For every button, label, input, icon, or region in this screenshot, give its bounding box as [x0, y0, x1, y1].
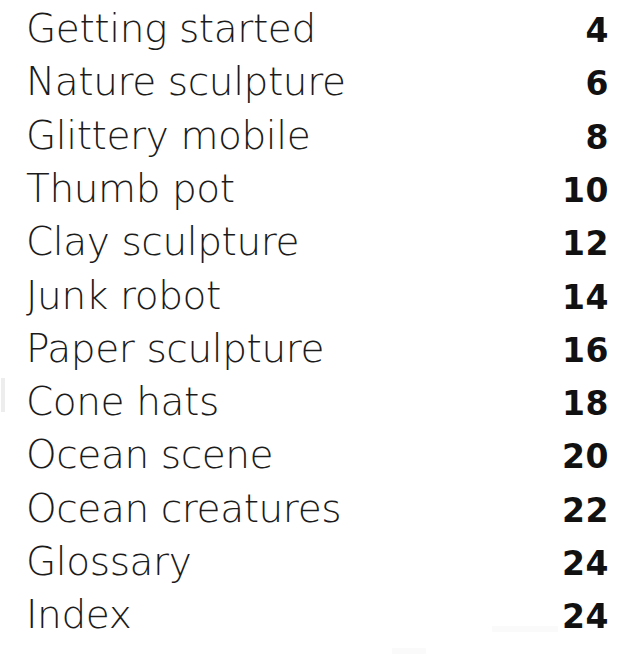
toc-entry-page-number: 6: [586, 67, 609, 100]
toc-entry-leader: [310, 148, 585, 149]
toc-entry-title: Ocean creatures: [26, 489, 341, 528]
toc-entry-leader: [131, 627, 562, 628]
toc-entry-leader: [346, 94, 586, 95]
toc-entry-leader: [219, 414, 562, 415]
toc-entry-page-number: 18: [562, 387, 609, 420]
toc-entry-title: Clay sculpture: [26, 222, 299, 261]
toc-entry-page-number: 14: [562, 281, 609, 314]
toc-entry-page-number: 22: [562, 494, 609, 527]
toc-entry[interactable]: Index24: [26, 595, 609, 648]
toc-entry-page-number: 4: [586, 14, 609, 47]
toc-entry-title: Index: [26, 595, 131, 634]
toc-entry-page-number: 8: [586, 121, 609, 154]
table-of-contents-page: Getting started4Nature sculpture6Glitter…: [0, 0, 619, 656]
toc-entry[interactable]: Glossary24: [26, 542, 609, 595]
toc-entry-leader: [299, 254, 562, 255]
toc-entry-leader: [235, 201, 562, 202]
toc-entry[interactable]: Thumb pot10: [26, 169, 609, 222]
toc-entry[interactable]: Glittery mobile8: [26, 116, 609, 169]
toc-entry-title: Glittery mobile: [26, 116, 310, 155]
toc-entry-leader: [221, 308, 562, 309]
toc-entry-page-number: 24: [562, 547, 609, 580]
toc-entry-title: Nature sculpture: [26, 62, 346, 101]
toc-entry-leader: [324, 361, 562, 362]
toc-entry-title: Junk robot: [26, 276, 221, 315]
toc-entry-title: Getting started: [26, 9, 316, 48]
toc-entry[interactable]: Ocean creatures22: [26, 489, 609, 542]
toc-entry-title: Paper sculpture: [26, 329, 324, 368]
toc-entry-title: Thumb pot: [26, 169, 235, 208]
toc-entry-leader: [341, 521, 562, 522]
toc-entry[interactable]: Junk robot14: [26, 276, 609, 329]
toc-entry-page-number: 10: [562, 174, 609, 207]
toc-entry[interactable]: Paper sculpture16: [26, 329, 609, 382]
toc-entry[interactable]: Clay sculpture12: [26, 222, 609, 275]
toc-entry-leader: [316, 41, 586, 42]
toc-entry[interactable]: Ocean scene20: [26, 435, 609, 488]
toc-entry-leader: [273, 467, 562, 468]
toc-entry-title: Cone hats: [26, 382, 219, 421]
toc-entry-page-number: 12: [562, 227, 609, 260]
toc-entry-page-number: 16: [562, 334, 609, 367]
toc-entry-page-number: 24: [562, 600, 609, 633]
toc-entry[interactable]: Cone hats18: [26, 382, 609, 435]
toc-entry[interactable]: Nature sculpture6: [26, 62, 609, 115]
toc-entry-title: Ocean scene: [26, 435, 273, 474]
toc-entry-title: Glossary: [26, 542, 191, 581]
toc-entry[interactable]: Getting started4: [26, 9, 609, 62]
toc-entry-leader: [191, 574, 562, 575]
toc-entry-page-number: 20: [562, 440, 609, 473]
scan-artifact-left-edge: [1, 378, 5, 412]
scan-artifact-bottom-b: [392, 648, 426, 654]
